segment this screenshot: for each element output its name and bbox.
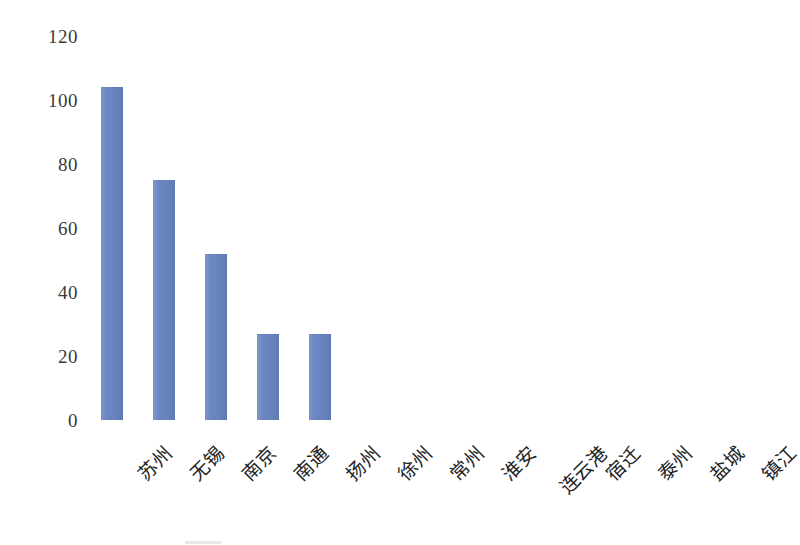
bar: [205, 254, 227, 420]
bar: [309, 334, 331, 420]
x-axis-tick-label: 泰州: [654, 443, 695, 484]
x-axis-tick-label: 淮安: [498, 443, 539, 484]
y-axis-tick-label: 20: [8, 347, 78, 366]
x-axis-tick-label: 徐州: [394, 443, 435, 484]
x-axis-tick-label: 南通: [290, 443, 331, 484]
x-axis-tick-label: 南京: [238, 443, 279, 484]
y-axis-tick-label: 0: [8, 411, 78, 430]
x-axis-tick-label: 苏州: [134, 443, 175, 484]
y-axis-tick-label: 60: [8, 219, 78, 238]
x-axis-tick-label: 盐城: [706, 443, 747, 484]
y-axis-tick-label: 100: [8, 91, 78, 110]
y-axis-tick-label: 80: [8, 155, 78, 174]
x-axis-tick-label: 镇江: [758, 443, 799, 484]
bar: [257, 334, 279, 420]
x-axis-tick-label: 扬州: [342, 443, 383, 484]
bar: [101, 87, 123, 420]
y-axis-tick-label: 40: [8, 283, 78, 302]
y-axis-tick-label: 120: [8, 27, 78, 46]
x-axis-tick-label: 宿迁: [602, 443, 643, 484]
bar: [153, 180, 175, 420]
x-axis-tick-label: 无锡: [186, 443, 227, 484]
page-edge-artifact: [185, 541, 221, 544]
x-axis-tick-label: 常州: [446, 443, 487, 484]
